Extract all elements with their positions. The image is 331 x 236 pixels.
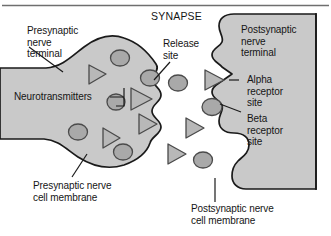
cleft-neurotransmitter xyxy=(186,118,204,138)
figure-title: SYNAPSE xyxy=(151,11,202,23)
label-neurotransmitters: Neurotransmitters xyxy=(14,91,92,103)
vesicle xyxy=(111,50,130,66)
vesicle xyxy=(69,124,88,140)
release-site-vesicle xyxy=(141,70,160,86)
label-postsynaptic-membrane: Postsynaptic nerve cell membrane xyxy=(191,203,274,226)
vesicle xyxy=(114,144,133,160)
label-presynaptic-membrane: Presynaptic nerve cell membrane xyxy=(33,180,111,203)
cleft-vesicle xyxy=(194,152,213,168)
cleft-vesicle xyxy=(169,75,188,91)
synapse-diagram: SYNAPSE Presynaptic nerve terminal Neuro… xyxy=(0,0,331,236)
label-alpha-receptor: Alpha receptor site xyxy=(247,74,283,109)
label-postsynaptic-terminal: Postsynaptic nerve terminal xyxy=(241,24,297,59)
label-release-site: Release site xyxy=(163,38,199,61)
cleft-neurotransmitter xyxy=(168,144,186,164)
label-presynaptic-terminal: Presynaptic nerve terminal xyxy=(27,25,78,60)
beta-receptor-bound-vesicle xyxy=(202,99,222,116)
label-beta-receptor: Beta receptor site xyxy=(247,113,283,148)
